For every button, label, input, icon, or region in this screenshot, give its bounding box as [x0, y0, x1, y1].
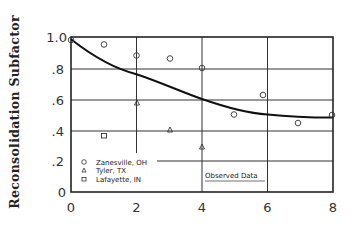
legend-item-lafayette: Lafayette, IN	[82, 176, 141, 184]
svg-text:0: 0	[58, 185, 66, 200]
svg-text:0: 0	[67, 200, 75, 215]
legend-item-zanesville: Zanesville, OH	[82, 159, 147, 167]
svg-text:.6: .6	[52, 93, 64, 108]
svg-text:.8: .8	[52, 62, 64, 77]
svg-text:2: 2	[132, 200, 140, 215]
svg-text:6: 6	[263, 200, 271, 215]
x-tick-labels: 0 2 4 6 8	[67, 200, 337, 215]
circle-marker-icon	[82, 160, 87, 165]
svg-text:.2: .2	[52, 154, 64, 169]
observed-data-annotation: Observed Data	[205, 172, 265, 181]
y-axis-label: Reconsolidation Subfactor	[7, 15, 22, 209]
svg-text:Observed Data: Observed Data	[205, 172, 258, 180]
plot-area: 1.0 .8 .6 .4 .2 0 0 2 4 6 8 Zanesville, …	[0, 0, 351, 226]
svg-text:8: 8	[329, 200, 337, 215]
svg-text:1.0: 1.0	[46, 30, 67, 45]
svg-text:Lafayette, IN: Lafayette, IN	[96, 176, 141, 184]
legend: Zanesville, OH Tyler, TX Lafayette, IN	[82, 159, 147, 184]
svg-text:4: 4	[198, 200, 206, 215]
legend-item-tyler: Tyler, TX	[82, 167, 126, 175]
chart: Reconsolidation Subfactor	[0, 0, 351, 226]
svg-text:Tyler, TX: Tyler, TX	[95, 167, 126, 175]
triangle-marker-icon	[82, 168, 86, 172]
svg-text:.4: .4	[52, 124, 64, 139]
svg-text:Zanesville, OH: Zanesville, OH	[96, 159, 147, 167]
y-tick-labels: 1.0 .8 .6 .4 .2 0	[46, 30, 67, 200]
lafayette-points	[102, 134, 107, 139]
tyler-points	[135, 100, 205, 149]
square-marker-icon	[82, 178, 86, 182]
